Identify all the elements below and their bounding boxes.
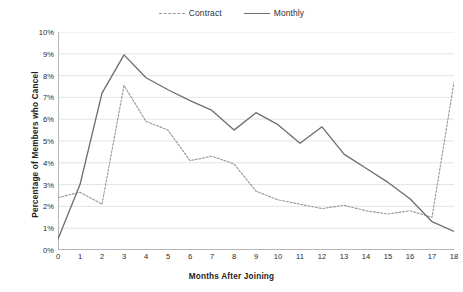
- y-tick-label: 2%: [28, 202, 54, 211]
- x-tick-label: 2: [92, 252, 112, 261]
- legend-swatch-monthly: [244, 13, 270, 14]
- legend-label-monthly: Monthly: [274, 8, 304, 18]
- y-tick-label: 10%: [28, 28, 54, 37]
- x-tick-label: 3: [114, 252, 134, 261]
- y-tick-label: 8%: [28, 71, 54, 80]
- y-axis-tick-labels: 0%1%2%3%4%5%6%7%8%9%10%: [24, 32, 54, 250]
- x-axis-tick-labels: 0123456789101112131415161718: [58, 252, 454, 266]
- x-tick-label: 14: [356, 252, 376, 261]
- series-line-monthly: [58, 55, 454, 239]
- y-tick-label: 1%: [28, 224, 54, 233]
- series-line-contract: [58, 82, 454, 217]
- legend-item-contract: Contract: [159, 8, 222, 18]
- x-tick-label: 11: [290, 252, 310, 261]
- x-tick-label: 12: [312, 252, 332, 261]
- x-tick-label: 13: [334, 252, 354, 261]
- x-tick-label: 16: [400, 252, 420, 261]
- x-tick-label: 10: [268, 252, 288, 261]
- x-tick-label: 6: [180, 252, 200, 261]
- x-tick-label: 0: [48, 252, 68, 261]
- x-tick-label: 15: [378, 252, 398, 261]
- legend-label-contract: Contract: [189, 8, 222, 18]
- y-tick-label: 7%: [28, 93, 54, 102]
- x-tick-label: 1: [70, 252, 90, 261]
- x-tick-label: 17: [422, 252, 442, 261]
- x-tick-label: 9: [246, 252, 266, 261]
- y-tick-label: 3%: [28, 180, 54, 189]
- y-tick-label: 4%: [28, 158, 54, 167]
- chart-container: Contract Monthly Percentage of Members w…: [0, 0, 463, 292]
- x-axis-title: Months After Joining: [0, 272, 463, 281]
- x-tick-label: 4: [136, 252, 156, 261]
- y-tick-label: 6%: [28, 115, 54, 124]
- y-tick-label: 5%: [28, 137, 54, 146]
- x-tick-label: 8: [224, 252, 244, 261]
- chart-plot-svg: [58, 32, 454, 250]
- legend-item-monthly: Monthly: [244, 8, 304, 18]
- plot-area: [58, 32, 454, 250]
- chart-legend: Contract Monthly: [0, 8, 463, 18]
- x-tick-label: 18: [444, 252, 463, 261]
- y-tick-label: 9%: [28, 49, 54, 58]
- legend-swatch-contract: [159, 13, 185, 14]
- x-tick-label: 5: [158, 252, 178, 261]
- x-tick-label: 7: [202, 252, 222, 261]
